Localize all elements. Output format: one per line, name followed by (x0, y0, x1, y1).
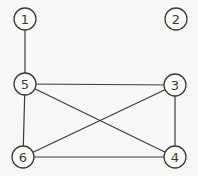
edge-5-3 (25, 84, 175, 85)
node-label: 2 (172, 12, 180, 27)
nodes-layer: 123456 (12, 8, 187, 168)
node-1: 1 (14, 8, 36, 30)
node-label: 3 (171, 78, 179, 93)
node-label: 6 (19, 150, 27, 165)
node-label: 4 (171, 150, 179, 165)
node-5: 5 (14, 73, 36, 95)
node-label: 1 (21, 12, 29, 27)
node-3: 3 (164, 74, 186, 96)
edges-layer (23, 19, 175, 157)
node-2: 2 (165, 8, 187, 30)
graph-diagram: 123456 (0, 0, 198, 176)
node-6: 6 (12, 146, 34, 168)
node-4: 4 (164, 146, 186, 168)
node-label: 5 (21, 77, 29, 92)
